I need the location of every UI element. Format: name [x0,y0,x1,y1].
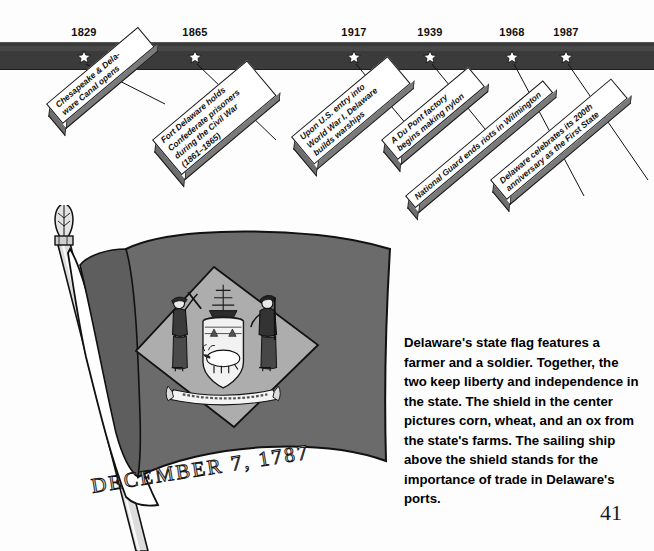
timeline-star-icon-1987 [559,50,573,64]
page-number: 41 [600,500,622,526]
plaque-line: Delaware celebrates its 200th [497,85,614,186]
timeline-star-icon-1829 [77,50,91,64]
page-root: 1829 1865 1917 1939 1968 1987 Chesapeake… [0,0,654,551]
timeline-star-icon-1939 [423,50,437,64]
timeline-star-icon-1865 [188,50,202,64]
timeline-star-icon-1917 [347,50,361,64]
timeline-star-icon-1968 [505,50,519,64]
timeline-plaque-1987: Delaware celebrates its 200th anniversar… [490,78,628,199]
timeline-year-1865: 1865 [182,26,207,38]
plaque-face: Delaware celebrates its 200th anniversar… [490,78,628,199]
timeline-year-1939: 1939 [417,26,442,38]
timeline-year-1917: 1917 [341,26,366,38]
timeline-plaque-1865: Fort Delaware holds Confederate prisoner… [152,60,277,175]
delaware-flag-illustration: DECEMBER 7, 1787 [18,205,408,551]
timeline-year-1968: 1968 [499,26,524,38]
body-paragraph: Delaware's state flag features a farmer … [404,333,644,509]
timeline-year-1829: 1829 [71,26,96,38]
timeline-year-1987: 1987 [553,26,578,38]
